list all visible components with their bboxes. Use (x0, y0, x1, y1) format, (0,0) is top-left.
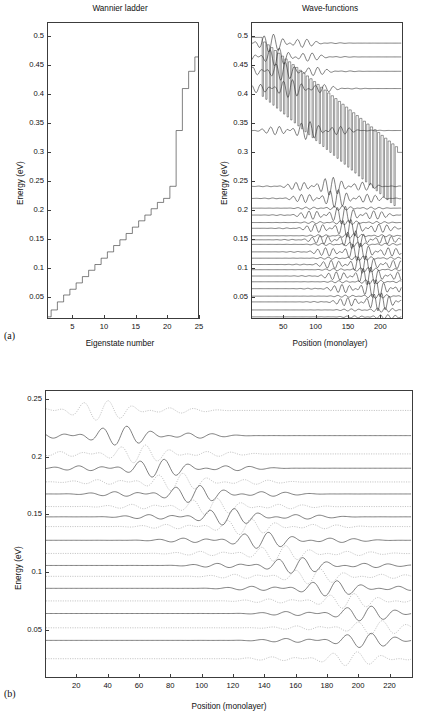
panel-a: (a) Wannier ladder Energy (eV) Eigenstat… (0, 0, 425, 360)
eigenstate-wavefunction (252, 293, 401, 311)
wavefunction-trace-state-2 (46, 426, 411, 445)
y-tick-mark (251, 152, 255, 153)
wavefunction-trace-state-8 (46, 509, 411, 525)
y-tick-mark (47, 297, 51, 298)
y-tick-label: 0.15 (217, 234, 248, 243)
y-tick-label: 0.3 (13, 147, 44, 156)
y-tick-mark (47, 210, 51, 211)
y-tick-mark (251, 239, 255, 240)
eigenstate-wavefunction (252, 206, 401, 210)
x-tick-label: 5 (58, 322, 86, 331)
wannier-ladder-title: Wannier ladder (40, 4, 200, 13)
y-tick-mark (251, 297, 255, 298)
wavefunction-trace-state-5 (46, 473, 411, 490)
wavefunction-trace-state-3 (46, 445, 411, 463)
y-tick-mark (47, 123, 51, 124)
x-tick-label: 10 (90, 322, 118, 331)
wavefunction-trace-state-14 (46, 581, 411, 596)
x-tick-mark (348, 315, 349, 319)
x-tick-mark (296, 674, 297, 678)
wavefunction-trace-state-7 (46, 498, 411, 514)
panel-b: (b) Energy (eV) Position (monolayer) 0.0… (0, 380, 425, 726)
y-tick-mark (47, 268, 51, 269)
x-tick-label: 120 (219, 681, 247, 690)
y-tick-label: 0.2 (13, 205, 44, 214)
eigenstate-wavefunction (252, 231, 401, 249)
panel-a-label: (a) (4, 330, 15, 341)
x-tick-mark (104, 315, 105, 319)
eigenstate-wavefunction (252, 315, 401, 318)
x-tick-mark (316, 315, 317, 319)
wave-functions-xlabel: Position (monolayer) (250, 339, 410, 348)
detail-xlabel: Position (monolayer) (44, 702, 414, 711)
figure-root: (a) Wannier ladder Energy (eV) Eigenstat… (0, 0, 425, 726)
eigenstate-wavefunction (252, 122, 401, 140)
eigenstate-wavefunction (252, 280, 401, 284)
x-tick-label: 150 (334, 322, 362, 331)
x-tick-label: 220 (376, 681, 404, 690)
y-tick-label: 0.45 (13, 60, 44, 69)
y-tick-label: 0.4 (13, 89, 44, 98)
x-tick-mark (167, 315, 168, 319)
wavefunction-trace-state-16 (46, 606, 411, 621)
y-tick-mark (47, 152, 51, 153)
y-tick-mark (251, 94, 255, 95)
x-tick-label: 25 (185, 322, 213, 331)
y-tick-mark (45, 399, 49, 400)
x-tick-label: 200 (366, 322, 394, 331)
y-tick-label: 0.1 (13, 263, 44, 272)
y-tick-label: 0.45 (217, 60, 248, 69)
y-tick-label: 0.2 (11, 452, 42, 461)
x-tick-mark (390, 674, 391, 678)
wave-functions-curves (252, 23, 402, 318)
x-tick-mark (139, 674, 140, 678)
x-tick-mark (283, 315, 284, 319)
eigenstate-wavefunction (252, 206, 401, 224)
wannier-ladder-plot (47, 22, 199, 319)
x-tick-label: 40 (94, 681, 122, 690)
y-tick-mark (45, 457, 49, 458)
y-tick-label: 0.2 (217, 205, 248, 214)
wavefunction-trace-state-17 (46, 621, 411, 635)
wavefunction-trace-state-6 (46, 486, 411, 503)
y-tick-label: 0.15 (11, 509, 42, 518)
wavefunction-trace-state-12 (46, 558, 411, 574)
wavefunction-trace-state-10 (46, 532, 411, 548)
y-tick-mark (47, 36, 51, 37)
x-tick-mark (76, 674, 77, 678)
y-tick-label: 0.05 (13, 292, 44, 301)
wave-functions-title: Wave-functions (250, 4, 410, 13)
wavefunction-trace-state-13 (46, 569, 411, 584)
y-tick-mark (45, 572, 49, 573)
y-tick-mark (47, 94, 51, 95)
y-tick-label: 0.1 (217, 263, 248, 272)
x-tick-mark (108, 674, 109, 678)
x-tick-mark (233, 674, 234, 678)
x-tick-label: 180 (313, 681, 341, 690)
x-tick-mark (72, 315, 73, 319)
y-tick-mark (251, 268, 255, 269)
y-tick-mark (47, 65, 51, 66)
x-tick-label: 15 (122, 322, 150, 331)
x-tick-label: 200 (344, 681, 372, 690)
superlattice-potential (252, 37, 402, 205)
wavefunction-trace-state-11 (46, 546, 411, 562)
wavefunction-trace-state-4 (46, 459, 411, 477)
detail-curves (46, 391, 412, 677)
y-tick-label: 0.25 (13, 176, 44, 185)
x-tick-mark (202, 674, 203, 678)
wavefunction-trace-state-18 (46, 633, 411, 647)
y-tick-mark (45, 630, 49, 631)
wavefunction-trace-state-1 (46, 401, 411, 421)
y-tick-mark (251, 65, 255, 66)
x-tick-mark (170, 674, 171, 678)
y-tick-label: 0.35 (13, 118, 44, 127)
x-tick-mark (358, 674, 359, 678)
eigenstate-wavefunction (252, 190, 401, 208)
y-tick-label: 0.1 (11, 567, 42, 576)
y-tick-label: 0.5 (217, 31, 248, 40)
y-tick-mark (45, 514, 49, 515)
x-tick-mark (136, 315, 137, 319)
x-tick-label: 20 (62, 681, 90, 690)
y-tick-mark (251, 181, 255, 182)
